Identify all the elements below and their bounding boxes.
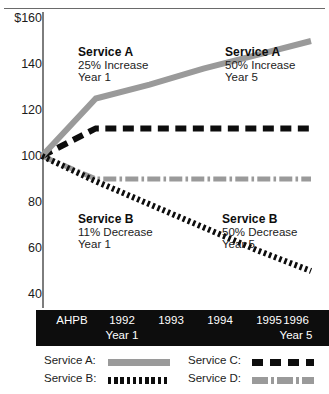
- annotation-title: Service A: [225, 46, 295, 59]
- legend-swatch-service-c: [252, 359, 314, 366]
- annotation-line1: 11% Decrease: [78, 226, 153, 239]
- annotation-service-b-year1: Service B 11% Decrease Year 1: [78, 213, 153, 251]
- x-sublabel-year5: Year 5: [266, 329, 326, 342]
- x-sublabel-year1: Year 1: [92, 329, 152, 342]
- annotation-line2: Year 1: [78, 238, 153, 251]
- annotation-service-a-year5: Service A 50% Increase Year 5: [225, 46, 295, 84]
- annotation-line2: Year 5: [222, 238, 297, 251]
- annotation-line2: Year 5: [225, 71, 295, 84]
- legend-swatch-service-d: [252, 377, 314, 384]
- annotation-service-b-year5: Service B 50% Decrease Year 5: [222, 213, 297, 251]
- x-axis-bar: AHPB 1992 1993 1994 1995 1996 Year 1 Yea…: [36, 310, 329, 346]
- annotation-title: Service A: [78, 46, 148, 59]
- annotation-line1: 25% Increase: [78, 59, 148, 72]
- legend-swatch-service-b: [108, 377, 170, 384]
- annotation-line2: Year 1: [78, 71, 148, 84]
- legend-label-service-b: Service B:: [44, 372, 96, 384]
- legend-label-service-c: Service C:: [188, 354, 241, 366]
- x-tick-1996: 1996: [266, 314, 326, 327]
- legend-label-service-d: Service D:: [188, 372, 241, 384]
- annotation-service-a-year1: Service A 25% Increase Year 1: [78, 46, 148, 84]
- legend-swatch-service-a: [108, 359, 170, 366]
- series-service-c: [42, 128, 311, 156]
- chart-figure: $160 140 120 100 80 60 40 Service A 25% …: [0, 0, 329, 394]
- annotation-line1: 50% Decrease: [222, 226, 297, 239]
- annotation-line1: 50% Increase: [225, 59, 295, 72]
- annotation-title: Service B: [78, 213, 153, 226]
- annotation-title: Service B: [222, 213, 297, 226]
- chart-legend: Service A: Service B: Service C: Service…: [0, 352, 329, 392]
- legend-label-service-a: Service A:: [44, 354, 96, 366]
